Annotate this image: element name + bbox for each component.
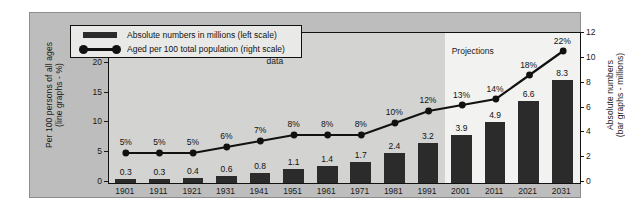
- projections-band-label-line1: Projections: [438, 47, 508, 57]
- bar: [518, 101, 539, 183]
- line-marker: [492, 96, 499, 103]
- line-marker: [526, 72, 533, 79]
- line-value-label: 10%: [380, 107, 408, 117]
- line-value-label: 5%: [145, 137, 173, 147]
- bar-value-label: 2.4: [381, 141, 407, 151]
- right-axis-tick-label: 6: [586, 102, 606, 112]
- bar-value-label: 0.8: [247, 161, 273, 171]
- right-axis-tick-label: 10: [586, 52, 606, 62]
- line-value-label: 5%: [112, 137, 140, 147]
- chart-plate: Per 100 persons of all ages (line graphs…: [29, 12, 581, 198]
- bar-value-label: 0.6: [214, 164, 240, 174]
- bar-value-label: 1.7: [348, 150, 374, 160]
- legend-line-dot-icon: [79, 42, 121, 56]
- line-value-label: 22%: [548, 36, 576, 46]
- x-axis-tick-label: 1931: [209, 186, 243, 197]
- bar: [350, 162, 371, 183]
- bar: [485, 122, 506, 183]
- right-axis-tick-label: 8: [586, 77, 606, 87]
- bar-value-label: 3.2: [415, 131, 441, 141]
- right-axis-tick-label: 2: [586, 151, 606, 161]
- bar-value-label: 0.3: [146, 167, 172, 177]
- line-marker: [324, 132, 331, 139]
- bar: [552, 80, 573, 183]
- bar-value-label: 8.3: [549, 68, 575, 78]
- x-axis-tick-label: 1971: [343, 186, 377, 197]
- left-axis-tick-label: 0: [82, 176, 102, 186]
- line-marker: [257, 138, 264, 145]
- bar: [183, 178, 204, 183]
- right-axis-tick-label: 4: [586, 126, 606, 136]
- line-value-label: 12%: [414, 95, 442, 105]
- left-axis-tick-label: 5: [82, 146, 102, 156]
- right-axis-title: Absolute numbers (bar graphs - millions): [605, 15, 625, 175]
- left-axis-tick-label: 10: [82, 116, 102, 126]
- x-axis-tick-label: 1961: [309, 186, 343, 197]
- bar-value-label: 0.3: [113, 167, 139, 177]
- line-marker: [156, 150, 163, 157]
- chart-legend: Absolute numbers in millions (left scale…: [70, 25, 302, 58]
- line-marker: [190, 150, 197, 157]
- x-axis-tick-label: 2021: [511, 186, 545, 197]
- line-marker: [223, 144, 230, 151]
- x-axis-tick-label: 1951: [276, 186, 310, 197]
- x-axis-tick-label: 1991: [410, 186, 444, 197]
- x-axis-tick-label: 2001: [444, 186, 478, 197]
- line-value-label: 13%: [448, 90, 476, 100]
- line-marker: [459, 102, 466, 109]
- bar: [317, 166, 338, 183]
- right-axis-tick-label: 0: [586, 176, 606, 186]
- left-axis-title: Per 100 persons of all ages (line graphs…: [44, 15, 64, 175]
- legend-label-line: Aged per 100 total population (right sca…: [127, 42, 285, 56]
- left-axis-title-line1: Per 100 persons of all ages: [44, 15, 54, 175]
- bar: [451, 135, 472, 183]
- legend-bar-icon: [79, 28, 121, 42]
- left-axis-title-line2: (line graphs - %): [54, 15, 64, 175]
- line-marker: [425, 108, 432, 115]
- line-value-label: 8%: [280, 119, 308, 129]
- bar-value-label: 0.4: [180, 166, 206, 176]
- left-axis-tick-label: 20: [82, 57, 102, 67]
- line-marker: [392, 120, 399, 127]
- x-axis-labels: 1901191119211931194119511961197119811991…: [108, 185, 581, 199]
- bar: [283, 169, 304, 183]
- bar: [418, 143, 439, 183]
- legend-item-line: Aged per 100 total population (right sca…: [71, 42, 301, 56]
- right-axis-tick-label: 12: [586, 27, 606, 37]
- line-marker: [358, 132, 365, 139]
- bar-value-label: 6.6: [516, 89, 542, 99]
- x-axis-tick-label: 1941: [242, 186, 276, 197]
- line-value-label: 14%: [481, 84, 509, 94]
- x-axis-tick-label: 2031: [544, 186, 578, 197]
- line-value-label: 6%: [213, 131, 241, 141]
- right-axis-title-line2: (bar graphs - millions): [615, 15, 625, 175]
- line-value-label: 18%: [515, 60, 543, 70]
- bar: [149, 179, 170, 183]
- bar: [115, 179, 136, 183]
- x-axis-tick-label: 1911: [142, 186, 176, 197]
- line-marker: [560, 48, 567, 55]
- x-axis-tick-label: 1981: [377, 186, 411, 197]
- bar: [216, 176, 237, 183]
- x-axis-tick-label: 2011: [477, 186, 511, 197]
- left-axis-tick-label: 15: [82, 87, 102, 97]
- bar-value-label: 4.9: [482, 110, 508, 120]
- legend-item-bars: Absolute numbers in millions (left scale…: [71, 28, 301, 42]
- bar-value-label: 1.4: [314, 154, 340, 164]
- line-marker: [122, 150, 129, 157]
- line-value-label: 7%: [246, 125, 274, 135]
- bar: [384, 153, 405, 183]
- bar-value-label: 1.1: [281, 157, 307, 167]
- x-axis-tick-label: 1901: [108, 186, 142, 197]
- line-marker: [291, 132, 298, 139]
- line-value-label: 8%: [313, 119, 341, 129]
- right-axis-title-line1: Absolute numbers: [605, 15, 615, 175]
- line-value-label: 5%: [179, 137, 207, 147]
- bar-value-label: 3.9: [449, 123, 475, 133]
- bar: [250, 173, 271, 183]
- line-value-label: 8%: [347, 119, 375, 129]
- projections-band-label: Projections: [438, 47, 508, 57]
- x-axis-tick-label: 1921: [175, 186, 209, 197]
- legend-label-bars: Absolute numbers in millions (left scale…: [127, 28, 277, 42]
